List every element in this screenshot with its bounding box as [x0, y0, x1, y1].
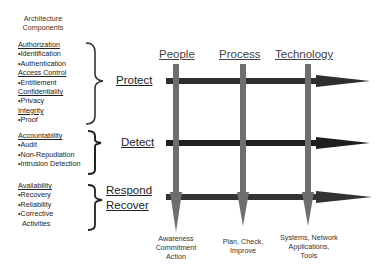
list-item: Activities	[18, 219, 53, 228]
bottom-line: Improve	[213, 246, 273, 255]
arrow-detect	[166, 137, 370, 149]
list-heading: Access Control	[18, 68, 66, 77]
brace-respond	[88, 185, 102, 230]
diagram-title: Architecture Components	[8, 14, 78, 32]
column-process: Process	[219, 48, 261, 60]
phase-respond: Respond	[106, 184, 152, 196]
arrow-respond	[166, 191, 372, 203]
arrow-protect	[166, 75, 370, 87]
technology-outcomes: Systems, Network Applications, Tools	[276, 233, 342, 260]
list-heading: Accountability	[18, 131, 80, 140]
component-list-respond: Availability •Recovery •Reliability •Cor…	[18, 181, 53, 228]
list-item: •Intrusion Detection	[18, 159, 80, 168]
list-item: •Reliability	[18, 200, 53, 209]
brace-detect	[88, 131, 101, 174]
bottom-line: Action	[146, 252, 206, 261]
phase-recover: Recover	[106, 199, 149, 211]
list-heading: Confidentiality	[18, 87, 66, 96]
bottom-line: Plan, Check,	[213, 237, 273, 246]
people-outcomes: Awareness Commitment Action	[146, 234, 206, 261]
security-architecture-diagram: Architecture Components Authorization •I…	[0, 0, 384, 273]
list-heading: Authorization	[18, 40, 66, 49]
title-line-2: Components	[8, 23, 78, 32]
list-item: •Recovery	[18, 190, 53, 199]
process-outcomes: Plan, Check, Improve	[213, 237, 273, 255]
list-item: •Privacy	[18, 96, 66, 105]
bottom-line: Awareness	[146, 234, 206, 243]
list-heading: Integrity	[18, 106, 66, 115]
list-item: •Identification	[18, 49, 66, 58]
bottom-line: Commitment	[146, 243, 206, 252]
list-item: •Audit	[18, 140, 80, 149]
list-item: •Proof	[18, 115, 66, 124]
column-technology: Technology	[275, 48, 333, 60]
column-people: People	[159, 48, 195, 60]
component-list-detect: Accountability •Audit •Non-Repudiation •…	[18, 131, 80, 169]
list-heading: Availability	[18, 181, 53, 190]
bottom-line: Systems, Network	[276, 233, 342, 242]
list-item: •Authentication	[18, 59, 66, 68]
list-item: •Entitlement	[18, 78, 66, 87]
phase-detect: Detect	[121, 136, 154, 148]
bottom-line: Applications,	[276, 242, 342, 251]
brace-protect	[86, 43, 103, 124]
list-item: •Corrective	[18, 209, 53, 218]
bottom-line: Tools	[276, 251, 342, 260]
phase-protect: Protect	[116, 74, 152, 86]
component-list-protect: Authorization •Identification •Authentic…	[18, 40, 66, 125]
arrow-people	[170, 64, 182, 232]
list-item: •Non-Repudiation	[18, 150, 80, 159]
title-line-1: Architecture	[8, 14, 78, 23]
